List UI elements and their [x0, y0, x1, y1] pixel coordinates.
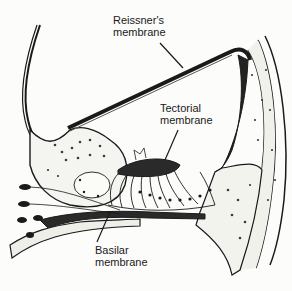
label-tectorial-membrane: Tectorial membrane — [160, 102, 213, 126]
tectorial-membrane — [118, 159, 180, 177]
label-line: Basilar — [95, 244, 148, 256]
nerve-fibers — [17, 184, 43, 238]
label-line: Reissner's — [113, 14, 166, 26]
label-line: membrane — [95, 256, 148, 268]
label-line: Tectorial — [160, 102, 213, 114]
label-basilar-membrane: Basilar membrane — [95, 244, 148, 268]
stria-vascularis — [215, 55, 248, 172]
label-line: membrane — [160, 114, 213, 126]
cochlear-duct-diagram: Reissner's membrane Tectorial membrane B… — [0, 0, 292, 291]
spiral-limbus — [30, 128, 127, 207]
label-reissners-membrane: Reissner's membrane — [113, 14, 166, 38]
label-line: membrane — [113, 26, 166, 38]
